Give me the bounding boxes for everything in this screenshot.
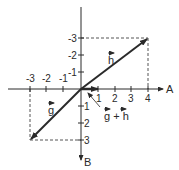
y-tick-label: 3: [84, 135, 90, 146]
x-tick-label: -1: [59, 73, 68, 84]
vector-g: [31, 89, 81, 139]
vector-diagram: -3 -2 -1 1 2 3 4 -1 -2 -3 1 2 3 A B h g …: [0, 0, 179, 170]
vector-h-label: h: [108, 53, 114, 66]
y-tick-label: 1: [84, 101, 90, 112]
vector-g-label: g: [48, 103, 54, 116]
y-tick-label: 2: [84, 118, 90, 129]
x-tick-label: 3: [128, 93, 134, 104]
svg-text:g + h: g + h: [104, 110, 129, 122]
svg-text:g: g: [48, 104, 54, 116]
x-tick-label: 4: [145, 93, 151, 104]
y-tick-label: -3: [68, 33, 77, 44]
svg-text:h: h: [108, 54, 114, 66]
x-tick-label: 2: [112, 93, 118, 104]
x-tick-label: 1: [96, 93, 102, 104]
x-tick-label: -3: [26, 73, 35, 84]
y-tick-label: -1: [68, 67, 77, 78]
y-axis-label: B: [84, 156, 91, 168]
x-axis-label: A: [166, 83, 174, 95]
vector-g-plus-h-label: g + h: [104, 109, 129, 122]
y-tick-label: -2: [68, 50, 77, 61]
x-tick-label: -2: [42, 73, 51, 84]
